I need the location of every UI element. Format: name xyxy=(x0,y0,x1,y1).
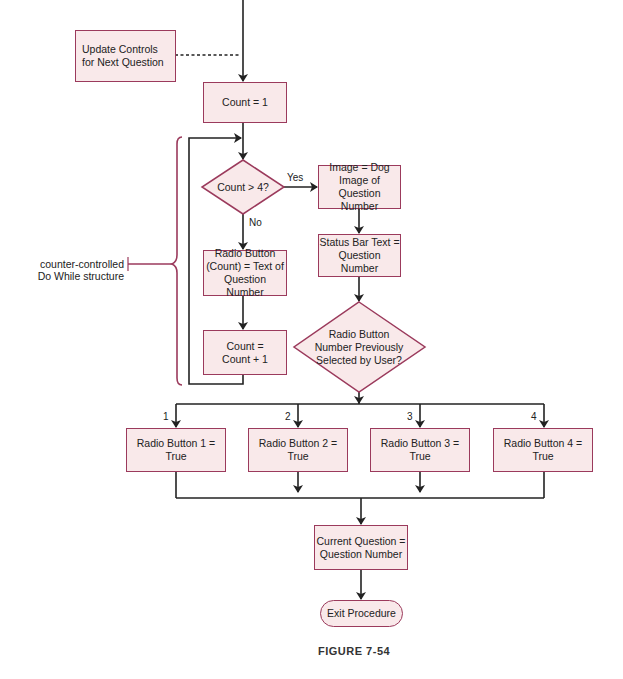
node-text: True xyxy=(137,450,216,463)
node-text: Count + 1 xyxy=(222,353,268,366)
loop-annotation: counter-controlled Do While structure xyxy=(20,258,124,282)
node-text: Current Question = xyxy=(316,535,405,548)
node-text: Number Previously xyxy=(315,341,404,354)
node-text: Radio Button xyxy=(315,328,404,341)
node-text: Question Number xyxy=(204,273,286,299)
radio1-node: Radio Button 1 = True xyxy=(126,428,226,472)
node-text: Status Bar Text = xyxy=(319,236,400,249)
count-increment-node: Count = Count + 1 xyxy=(203,330,287,375)
radio2-node: Radio Button 2 = True xyxy=(248,428,348,472)
node-text: Image of xyxy=(319,174,400,187)
node-text: Count = xyxy=(222,340,268,353)
yes-label: Yes xyxy=(287,172,303,183)
node-text: Radio Button 3 = xyxy=(381,437,460,450)
case-2-label: 2 xyxy=(285,411,291,422)
node-text: Count = 1 xyxy=(222,96,268,109)
loop-bracket xyxy=(172,137,182,385)
case-4-label: 4 xyxy=(531,411,537,422)
case-1-label: 1 xyxy=(163,411,169,422)
image-dog-node: Image = Dog Image of Question Number xyxy=(318,165,401,209)
node-text: True xyxy=(504,450,583,463)
node-text: True xyxy=(259,450,338,463)
figure-caption: FIGURE 7-54 xyxy=(318,645,390,657)
decision-selected-label: Radio Button Number Previously Selected … xyxy=(309,326,409,368)
node-text: Radio Button 1 = xyxy=(137,437,216,450)
annotation-line1: counter-controlled xyxy=(20,258,124,270)
node-text: Question Number xyxy=(316,548,405,561)
node-text: Question Number xyxy=(319,187,400,213)
node-text: True xyxy=(381,450,460,463)
node-text: Selected by User? xyxy=(315,354,404,367)
decision-count-label: Count > 4? xyxy=(205,180,281,194)
update-controls-node: Update Controls for Next Question xyxy=(75,30,176,82)
current-question-node: Current Question = Question Number xyxy=(314,525,408,570)
node-text: Exit Procedure xyxy=(327,607,396,620)
node-text: Update Controls xyxy=(82,43,164,56)
radio3-node: Radio Button 3 = True xyxy=(370,428,470,472)
no-label: No xyxy=(249,217,262,228)
node-text: Radio Button xyxy=(204,247,286,260)
node-text: for Next Question xyxy=(82,56,164,69)
node-text: Question Number xyxy=(319,249,400,275)
radio-text-node: Radio Button (Count) = Text of Question … xyxy=(203,250,287,296)
node-text: Radio Button 4 = xyxy=(504,437,583,450)
exit-procedure-terminal: Exit Procedure xyxy=(320,600,403,627)
node-text: Radio Button 2 = xyxy=(259,437,338,450)
count-init-node: Count = 1 xyxy=(203,82,287,123)
node-text: (Count) = Text of xyxy=(204,260,286,273)
radio4-node: Radio Button 4 = True xyxy=(493,428,593,472)
annotation-line2: Do While structure xyxy=(20,270,124,282)
case-3-label: 3 xyxy=(407,411,413,422)
node-text: Image = Dog xyxy=(319,161,400,174)
status-bar-node: Status Bar Text = Question Number xyxy=(318,234,401,277)
node-text: Count > 4? xyxy=(217,181,269,194)
